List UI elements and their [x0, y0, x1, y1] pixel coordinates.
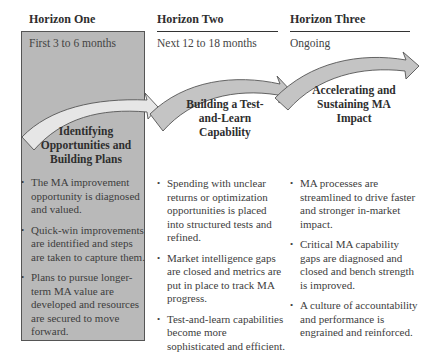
horizon-two-bullets: Spending with unclear returns or optimiz… [157, 177, 285, 357]
horizon-two-phase-title: Building a Test-and-Learn Capability [180, 97, 270, 139]
horizon-three-bullets: MA processes are streamlined to drive fa… [290, 177, 420, 347]
horizon-one-phase-title: Identifying Opportunities and Building P… [38, 124, 134, 166]
list-item: Market intelligence gaps are closed and … [157, 252, 285, 306]
list-item: The MA improvement opportunity is diagno… [21, 176, 145, 217]
list-item: A culture of accountability and performa… [290, 299, 420, 340]
list-item: Plans to pursue longer-term MA value are… [21, 271, 145, 339]
list-item: Critical MA capability gaps are diagnose… [290, 238, 420, 292]
horizon-three-phase-title: Accelerating and Sustaining MA Impact [306, 83, 402, 125]
horizon-one-bullets: The MA improvement opportunity is diagno… [21, 176, 145, 346]
list-item: MA processes are streamlined to drive fa… [290, 177, 420, 231]
list-item: Test-and-learn capabilities become more … [157, 313, 285, 354]
list-item: Spending with unclear returns or optimiz… [157, 177, 285, 245]
list-item: Quick-win improvements are identified an… [21, 224, 145, 265]
